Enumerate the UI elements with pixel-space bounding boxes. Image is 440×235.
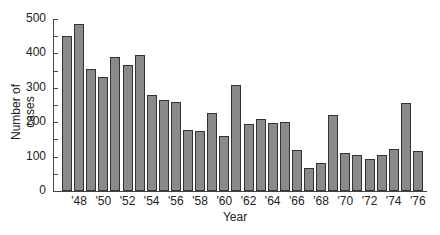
bar-1974 [389, 149, 399, 191]
y-tick-label: 200 [6, 114, 46, 128]
y-tick-mark [53, 71, 58, 72]
y-tick-mark [53, 36, 58, 37]
bar-1964 [268, 123, 278, 191]
bar-1954 [147, 95, 157, 191]
bar-1955 [159, 100, 169, 191]
bar-1966 [292, 150, 302, 191]
bar-1972 [365, 159, 375, 191]
bar-chart: Number of cases Year 0100200300400500 '4… [0, 0, 440, 235]
bar-1952 [123, 65, 133, 191]
bar-1956 [171, 102, 181, 191]
x-axis-line [53, 191, 427, 192]
y-tick-mark [53, 191, 58, 192]
bar-1949 [86, 69, 96, 191]
y-tick-mark [53, 174, 58, 175]
y-tick-mark [53, 105, 58, 106]
y-tick-label: 300 [6, 80, 46, 94]
bar-1975 [401, 103, 411, 191]
bar-1976 [413, 151, 423, 191]
bar-1948 [74, 24, 84, 191]
bar-1947 [62, 36, 72, 191]
bar-1958 [195, 131, 205, 191]
bar-1959 [207, 113, 217, 191]
y-tick-mark [53, 88, 58, 89]
x-tick-label: '76 [403, 194, 433, 208]
bar-1951 [110, 57, 120, 191]
bar-1971 [352, 155, 362, 191]
bar-1963 [256, 119, 266, 191]
y-tick-mark [53, 53, 58, 54]
y-tick-mark [53, 122, 58, 123]
bar-1970 [340, 153, 350, 191]
bar-1969 [328, 115, 338, 191]
bar-1950 [98, 77, 108, 191]
bar-1965 [280, 122, 290, 191]
bar-1961 [231, 85, 241, 191]
y-tick-label: 0 [6, 183, 46, 197]
y-tick-mark [53, 19, 58, 20]
x-axis-label: Year [215, 210, 255, 224]
bar-1967 [304, 168, 314, 191]
y-tick-mark [53, 157, 58, 158]
y-tick-mark [53, 139, 58, 140]
bar-1960 [219, 136, 229, 191]
bar-1957 [183, 130, 193, 191]
bar-1962 [244, 124, 254, 191]
y-tick-label: 500 [6, 11, 46, 25]
bar-1953 [135, 55, 145, 191]
y-tick-label: 100 [6, 149, 46, 163]
y-tick-label: 400 [6, 45, 46, 59]
bar-1973 [377, 155, 387, 191]
bar-1968 [316, 163, 326, 191]
